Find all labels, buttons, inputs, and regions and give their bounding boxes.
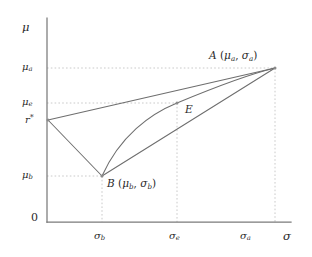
x-tick-sigma-a-base: σ xyxy=(240,230,247,241)
point-label-A-close: ) xyxy=(253,49,257,61)
origin-label: 0 xyxy=(31,212,38,223)
marker-B xyxy=(101,175,104,178)
point-label-A-comma: , xyxy=(235,49,242,61)
point-label-B-close: ) xyxy=(152,177,156,189)
marker-A xyxy=(274,67,277,70)
plot-canvas xyxy=(0,0,312,257)
point-label-A: A (μa, σa) xyxy=(209,50,257,62)
y-tick-mu-b-sub: b xyxy=(29,173,33,181)
y-tick-mu-a: μa xyxy=(22,62,33,73)
mean-variance-figure: μ σ 0 μa μe r* μb σb σe σa A (μa, σa) B … xyxy=(0,0,312,257)
y-tick-mu-e: μe xyxy=(22,97,33,108)
x-tick-sigma-e: σe xyxy=(169,231,180,242)
x-tick-sigma-a: σa xyxy=(240,231,251,242)
point-label-B-name: B xyxy=(107,177,115,189)
y-axis-label: μ xyxy=(22,22,29,34)
x-tick-sigma-e-sub: e xyxy=(176,234,180,242)
chord-B-to-A xyxy=(102,68,275,176)
plot-geometry xyxy=(48,68,275,176)
point-label-B-mu: μ xyxy=(122,177,129,189)
point-label-A-name: A xyxy=(209,49,217,61)
y-tick-r-star-mark: * xyxy=(30,113,34,122)
line-r-to-B xyxy=(48,120,102,176)
marker-r-star xyxy=(47,119,50,122)
x-tick-sigma-b: σb xyxy=(94,231,105,242)
y-tick-mu-b: μb xyxy=(22,170,33,181)
y-tick-mu-a-sub: a xyxy=(29,65,33,73)
x-tick-sigma-a-sub: a xyxy=(247,234,251,242)
x-tick-sigma-e-base: σ xyxy=(169,230,176,241)
point-markers xyxy=(47,67,277,178)
point-label-A-mu: μ xyxy=(224,49,231,61)
point-label-A-sigma: σ xyxy=(242,49,249,61)
x-tick-sigma-b-base: σ xyxy=(94,230,101,241)
x-tick-sigma-b-sub: b xyxy=(101,234,105,242)
point-label-E: E xyxy=(185,104,193,115)
x-axis-label: σ xyxy=(283,231,291,243)
y-tick-mu-e-sub: e xyxy=(29,100,33,108)
y-tick-r-star: r* xyxy=(25,114,34,125)
capital-line-r-to-A xyxy=(48,68,275,120)
grid-guides xyxy=(47,68,275,222)
marker-E xyxy=(176,102,179,105)
point-label-B: B (μb, σb) xyxy=(107,178,156,190)
